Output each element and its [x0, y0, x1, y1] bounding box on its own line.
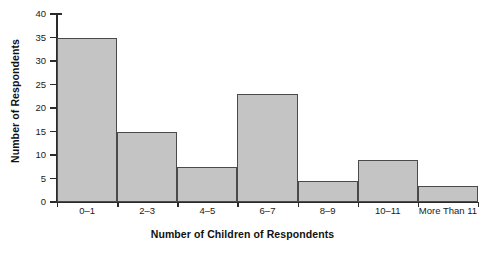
- bar-6-7: [237, 94, 297, 202]
- bar-2-3: [117, 132, 177, 203]
- y-axis-tick-label: 40: [22, 9, 46, 19]
- histogram-chart: Number of Respondents 0510152025303540 0…: [0, 0, 485, 255]
- x-axis-tick-label: 4–5: [177, 205, 237, 217]
- x-axis-tick-label: 6–7: [237, 205, 297, 217]
- y-axis-tick-mark: [50, 201, 56, 202]
- x-axis-tick-label: More Than 11: [418, 205, 478, 217]
- x-axis-tick-mark: [478, 202, 479, 207]
- x-axis-tick-label: 8–9: [298, 205, 358, 217]
- x-axis-tick-label: 0–1: [57, 205, 117, 217]
- y-axis-tick-label: 35: [22, 33, 46, 43]
- bar-4-5: [177, 167, 237, 202]
- y-axis-tick-mark: [50, 154, 56, 155]
- x-axis-tick-label: 10–11: [358, 205, 418, 217]
- y-axis-tick-label: 15: [22, 127, 46, 137]
- y-axis-tick-label: 20: [22, 103, 46, 113]
- bar-more-than-11: [418, 186, 478, 202]
- x-axis-title: Number of Children of Respondents: [0, 228, 485, 240]
- plot-area: [57, 14, 478, 202]
- y-axis-tick-label: 0: [22, 197, 46, 207]
- y-axis-tick-label: 30: [22, 56, 46, 66]
- y-axis-tick-label: 25: [22, 80, 46, 90]
- y-axis-tick-mark: [50, 37, 56, 38]
- y-axis-tick-mark: [50, 84, 56, 85]
- y-axis-tick-label: 10: [22, 150, 46, 160]
- bar-8-9: [298, 181, 358, 202]
- y-axis-tick-mark: [50, 107, 56, 108]
- y-axis-title: Number of Respondents: [7, 0, 23, 202]
- bar-10-11: [358, 160, 418, 202]
- y-axis-tick-mark: [50, 60, 56, 61]
- bar-0-1: [57, 38, 117, 203]
- y-axis-tick-mark: [50, 178, 56, 179]
- y-axis-tick-mark: [50, 131, 56, 132]
- y-axis-tick-label: 5: [22, 174, 46, 184]
- x-axis-tick-label: 2–3: [117, 205, 177, 217]
